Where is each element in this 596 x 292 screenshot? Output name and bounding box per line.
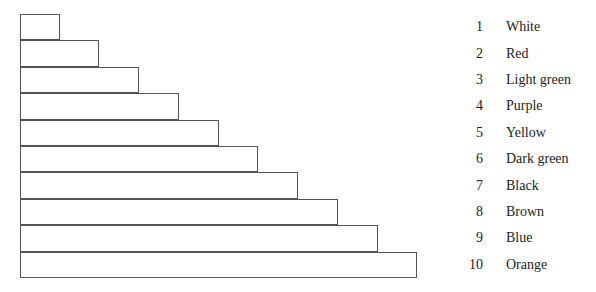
legend-item: 8Brown xyxy=(455,199,595,225)
legend-item: 10Orange xyxy=(455,252,595,278)
legend-number: 3 xyxy=(455,72,483,88)
legend-item: 3Light green xyxy=(455,67,595,93)
legend-item: 5Yellow xyxy=(455,120,595,146)
legend-number: 2 xyxy=(455,46,483,62)
legend-number: 7 xyxy=(455,178,483,194)
legend-label: Brown xyxy=(506,204,544,220)
legend-item: 4Purple xyxy=(455,93,595,119)
legend-label: Yellow xyxy=(506,125,546,141)
legend-item: 6Dark green xyxy=(455,146,595,172)
bar-8 xyxy=(20,199,338,225)
legend-number: 1 xyxy=(455,19,483,35)
bar-3 xyxy=(20,67,139,93)
legend-item: 9Blue xyxy=(455,225,595,251)
bar-7 xyxy=(20,172,298,198)
legend-number: 4 xyxy=(455,98,483,114)
legend-number: 5 xyxy=(455,125,483,141)
bar-9 xyxy=(20,225,378,251)
legend-label: Red xyxy=(506,46,529,62)
legend-label: White xyxy=(506,19,540,35)
bar-6 xyxy=(20,146,258,172)
bar-10 xyxy=(20,252,417,278)
bar-2 xyxy=(20,40,99,66)
legend-number: 8 xyxy=(455,204,483,220)
legend-item: 7Black xyxy=(455,172,595,198)
legend-number: 6 xyxy=(455,151,483,167)
legend-number: 9 xyxy=(455,230,483,246)
legend-label: Orange xyxy=(506,257,547,273)
legend-label: Dark green xyxy=(506,151,569,167)
legend-item: 2Red xyxy=(455,40,595,66)
bar-5 xyxy=(20,120,219,146)
legend-label: Purple xyxy=(506,98,543,114)
bar-4 xyxy=(20,93,179,119)
legend-item: 1White xyxy=(455,14,595,40)
legend-label: Light green xyxy=(506,72,571,88)
legend-label: Black xyxy=(506,178,539,194)
legend-label: Blue xyxy=(506,230,532,246)
bar-1 xyxy=(20,14,60,40)
legend-number: 10 xyxy=(455,257,483,273)
